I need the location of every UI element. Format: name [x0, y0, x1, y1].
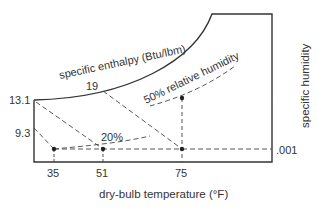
left-tick-9.3: 9.3	[15, 127, 30, 139]
psychrometric-chart: 13.1 9.3 19 .001 35 51 75 dry-bulb tempe…	[0, 0, 317, 209]
right-tick-001: .001	[276, 144, 297, 156]
x-tick-35: 35	[47, 167, 59, 179]
x-axis-label: dry-bulb temperature (°F)	[99, 188, 228, 200]
chart-frame	[34, 14, 272, 162]
point-75-rh50	[180, 96, 184, 100]
enthalpy-line-13.1	[36, 102, 103, 149]
y-axis-label-right: specific humidity	[299, 43, 311, 128]
point-35	[52, 147, 56, 151]
left-tick-13.1: 13.1	[9, 94, 30, 106]
x-tick-75: 75	[175, 167, 187, 179]
point-75	[180, 147, 184, 151]
x-tick-51: 51	[96, 167, 108, 179]
rh20-label: 20%	[101, 131, 123, 143]
enthalpy-line-9.3	[34, 128, 54, 149]
point-51	[101, 147, 105, 151]
enthalpy-tick-19: 19	[86, 80, 98, 92]
enthalpy-label: specific enthalpy (Btu/lbm)	[58, 42, 187, 81]
